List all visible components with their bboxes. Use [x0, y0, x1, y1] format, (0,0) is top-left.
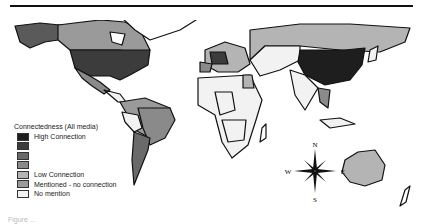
- region-iberia: [200, 62, 212, 72]
- legend-item: No mention: [17, 189, 117, 199]
- legend-item: Low Connection: [17, 170, 117, 180]
- legend-title: Connectedness (All media): [14, 123, 117, 130]
- legend-item: [17, 151, 117, 161]
- region-argentina: [132, 132, 150, 185]
- compass-rose-icon: N S W E: [280, 140, 350, 205]
- svg-text:N: N: [312, 141, 317, 149]
- legend-item: [17, 142, 117, 152]
- legend-item: Mentioned - no connection: [17, 180, 117, 190]
- legend-item: High Connection: [17, 132, 117, 142]
- region-france-germany: [210, 52, 228, 64]
- legend: Connectedness (All media) High Connectio…: [14, 123, 117, 199]
- svg-text:E: E: [341, 168, 345, 176]
- svg-text:S: S: [313, 196, 317, 204]
- svg-text:W: W: [285, 168, 292, 176]
- region-alaska: [15, 23, 60, 48]
- legend-item: [17, 161, 117, 171]
- region-egypt: [243, 75, 254, 88]
- top-rule: [10, 5, 413, 7]
- figure-caption: Figure ...: [8, 216, 36, 223]
